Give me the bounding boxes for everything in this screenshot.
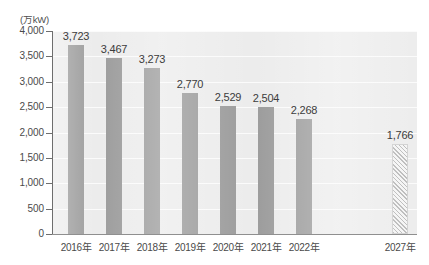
- y-axis-tick-label: 500: [0, 203, 44, 214]
- bar: [220, 106, 236, 234]
- y-axis-tick-label: 3,500: [0, 50, 44, 61]
- y-axis-tick: [46, 158, 52, 159]
- bar-value-label: 2,504: [244, 92, 288, 104]
- y-axis-unit-label: (万kW): [20, 12, 49, 26]
- y-axis-tick-label: 4,000: [0, 25, 44, 36]
- bar-value-label: 2,770: [168, 78, 212, 90]
- y-axis-line: [52, 31, 53, 235]
- y-axis-tick-label: 0: [0, 228, 44, 239]
- y-axis-tick: [46, 82, 52, 83]
- y-axis-tick: [46, 133, 52, 134]
- bar-value-label: 3,273: [130, 53, 174, 65]
- y-axis-tick: [46, 183, 52, 184]
- x-axis-tick-label: 2022年: [282, 239, 326, 254]
- bar: [296, 119, 312, 234]
- y-axis-tick-label: 2,500: [0, 101, 44, 112]
- bar-value-label: 2,268: [282, 104, 326, 116]
- bar-value-label: 3,723: [54, 30, 98, 42]
- bar: [182, 93, 198, 234]
- y-axis-tick-label: 1,000: [0, 177, 44, 188]
- y-axis-tick: [46, 56, 52, 57]
- y-axis-tick: [46, 31, 52, 32]
- x-axis-tick-label: 2027年: [378, 239, 422, 254]
- y-axis-tick: [46, 234, 52, 235]
- y-axis-tick: [46, 209, 52, 210]
- y-axis-tick: [46, 107, 52, 108]
- plot-area: [52, 31, 417, 234]
- y-axis-tick-label: 1,500: [0, 152, 44, 163]
- bar-value-label: 1,766: [378, 129, 422, 141]
- bar: [258, 107, 274, 234]
- y-axis-tick-label: 2,000: [0, 127, 44, 138]
- y-axis-tick-label: 3,000: [0, 76, 44, 87]
- bar-forecast: [392, 144, 408, 234]
- bar: [144, 68, 160, 234]
- bar: [106, 58, 122, 234]
- gridline: [52, 31, 417, 32]
- bar-chart: (万kW) 05001,0001,5002,0002,5003,0003,500…: [0, 0, 429, 265]
- bar: [68, 45, 84, 234]
- x-axis-line: [52, 234, 417, 235]
